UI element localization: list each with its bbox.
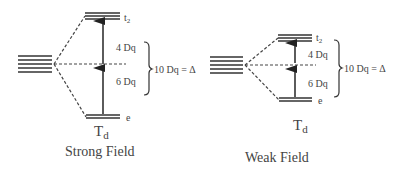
t2-levels (278, 35, 312, 41)
weak-field-panel: t2 e 4 Dq 6 Dq 10 Dq = Δ Td Weak Field (210, 32, 386, 165)
svg-text:4 Dq: 4 Dq (116, 42, 136, 53)
degenerate-d-levels (210, 57, 243, 73)
svg-text:t2: t2 (124, 12, 131, 25)
e-levels (86, 115, 120, 118)
svg-text:t2: t2 (316, 32, 323, 45)
brace (144, 42, 152, 95)
e-levels (279, 98, 312, 101)
degenerate-d-levels (18, 56, 52, 72)
svg-text:6 Dq: 6 Dq (308, 78, 328, 89)
svg-text:4 Dq: 4 Dq (308, 49, 328, 60)
crystal-field-diagram: t2 e 4 Dq 6 Dq 10 Dq = Δ Td Strong Field (0, 0, 399, 172)
svg-text:Weak Field: Weak Field (245, 150, 309, 165)
svg-text:e: e (318, 95, 323, 106)
correlation-dashes (54, 16, 126, 117)
brace (334, 40, 342, 97)
correlation-dashes (245, 38, 316, 100)
svg-text:6 Dq: 6 Dq (116, 76, 136, 87)
svg-text:Td: Td (94, 123, 109, 141)
svg-text:Strong Field: Strong Field (65, 144, 135, 159)
svg-text:10 Dq = Δ: 10 Dq = Δ (154, 64, 196, 75)
strong-field-panel: t2 e 4 Dq 6 Dq 10 Dq = Δ Td Strong Field (18, 12, 196, 159)
svg-text:Td: Td (293, 117, 308, 135)
t2-levels (85, 13, 120, 19)
svg-text:10 Dq = Δ: 10 Dq = Δ (344, 63, 386, 74)
svg-text:e: e (126, 112, 131, 123)
